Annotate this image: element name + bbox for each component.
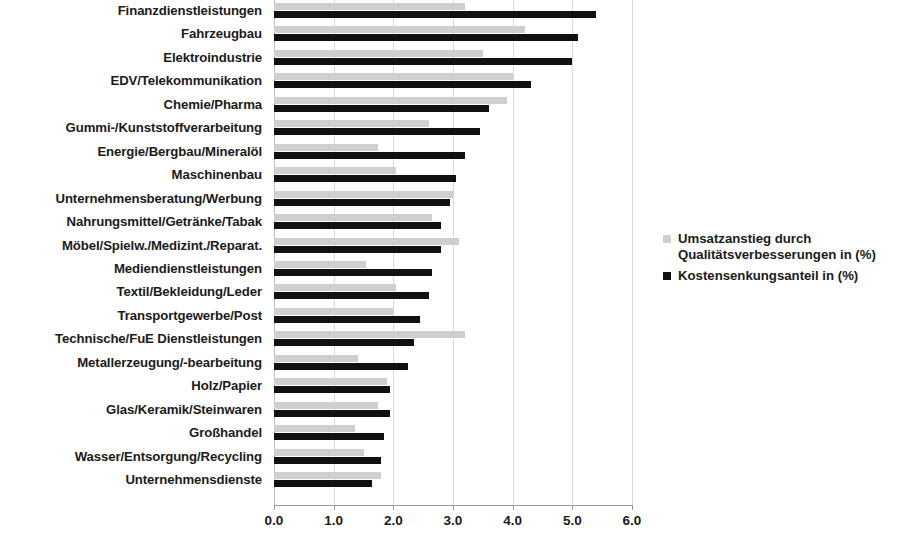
bar-kostensenkungsanteil: [274, 11, 596, 18]
category-label: Großhandel: [0, 426, 262, 440]
tick-label: 4.0: [490, 513, 536, 528]
bar-group: [274, 471, 632, 490]
legend-swatch-quality-icon: [663, 235, 671, 243]
bar-group: [274, 424, 632, 443]
bar-group: [274, 260, 632, 279]
legend-entry: Umsatzanstieg durch Qualitätsverbesserun…: [663, 231, 913, 262]
bar-kostensenkungsanteil: [274, 58, 572, 65]
bar-umsatzanstieg: [274, 50, 483, 57]
horizontal-bar-chart: FinanzdienstleistungenFahrzeugbauElektro…: [0, 0, 917, 546]
gridline-6.0: [632, 0, 633, 505]
bar-umsatzanstieg: [274, 26, 525, 33]
category-label: EDV/Telekommunikation: [0, 74, 262, 88]
bar-kostensenkungsanteil: [274, 292, 429, 299]
bar-group: [274, 143, 632, 162]
bar-kostensenkungsanteil: [274, 269, 432, 276]
plot-area: [274, 0, 632, 505]
bar-umsatzanstieg: [274, 402, 378, 409]
category-label: Maschinenbau: [0, 168, 262, 182]
bar-umsatzanstieg: [274, 97, 507, 104]
bar-kostensenkungsanteil: [274, 128, 480, 135]
bar-umsatzanstieg: [274, 449, 364, 456]
category-label: Unternehmensdienste: [0, 473, 262, 487]
category-label: Fahrzeugbau: [0, 27, 262, 41]
bar-group: [274, 448, 632, 467]
bar-kostensenkungsanteil: [274, 34, 578, 41]
category-label: Energie/Bergbau/Mineralöl: [0, 145, 262, 159]
tick-mark: [393, 505, 394, 510]
category-label: Gummi-/Kunststoffverarbeitung: [0, 121, 262, 135]
bar-umsatzanstieg: [274, 3, 465, 10]
bar-group: [274, 283, 632, 302]
bar-group: [274, 166, 632, 185]
bar-group: [274, 72, 632, 91]
legend-swatch-cost-icon: [663, 272, 671, 280]
bar-kostensenkungsanteil: [274, 199, 450, 206]
bar-kostensenkungsanteil: [274, 363, 408, 370]
bar-kostensenkungsanteil: [274, 433, 384, 440]
tick-label: 6.0: [609, 513, 655, 528]
bar-group: [274, 190, 632, 209]
tick-label: 2.0: [370, 513, 416, 528]
legend-label: Kostensenkungsanteil in (%): [678, 268, 858, 284]
bar-umsatzanstieg: [274, 167, 396, 174]
bar-kostensenkungsanteil: [274, 457, 381, 464]
bar-group: [274, 401, 632, 420]
bar-umsatzanstieg: [274, 120, 429, 127]
bar-kostensenkungsanteil: [274, 386, 390, 393]
bar-umsatzanstieg: [274, 472, 381, 479]
bar-kostensenkungsanteil: [274, 81, 531, 88]
tick-label: 3.0: [430, 513, 476, 528]
bar-kostensenkungsanteil: [274, 316, 420, 323]
bar-umsatzanstieg: [274, 284, 396, 291]
bar-group: [274, 354, 632, 373]
bar-group: [274, 96, 632, 115]
bar-group: [274, 330, 632, 349]
bar-group: [274, 213, 632, 232]
category-label: Transportgewerbe/Post: [0, 309, 262, 323]
bar-group: [274, 49, 632, 68]
category-label: Holz/Papier: [0, 379, 262, 393]
category-label: Unternehmensberatung/Werbung: [0, 192, 262, 206]
category-label: Möbel/Spielw./Medizint./Reparat.: [0, 239, 262, 253]
bar-kostensenkungsanteil: [274, 152, 465, 159]
bar-umsatzanstieg: [274, 191, 453, 198]
bar-kostensenkungsanteil: [274, 175, 456, 182]
bar-kostensenkungsanteil: [274, 410, 390, 417]
bar-kostensenkungsanteil: [274, 339, 414, 346]
bar-group: [274, 307, 632, 326]
bar-group: [274, 2, 632, 21]
bar-kostensenkungsanteil: [274, 480, 372, 487]
tick-label: 1.0: [311, 513, 357, 528]
category-label: Mediendienstleistungen: [0, 262, 262, 276]
category-label: Metallerzeugung/-bearbeitung: [0, 356, 262, 370]
tick-mark: [334, 505, 335, 510]
bar-umsatzanstieg: [274, 238, 459, 245]
tick-mark: [572, 505, 573, 510]
bar-group: [274, 237, 632, 256]
bar-kostensenkungsanteil: [274, 246, 441, 253]
value-axis: 0.01.02.03.04.05.06.0: [274, 505, 632, 546]
tick-label: 0.0: [251, 513, 297, 528]
bar-umsatzanstieg: [274, 73, 513, 80]
legend-entry: Kostensenkungsanteil in (%): [663, 268, 913, 284]
tick-label: 5.0: [549, 513, 595, 528]
category-label: Nahrungsmittel/Getränke/Tabak: [0, 215, 262, 229]
tick-mark: [632, 505, 633, 510]
bar-group: [274, 119, 632, 138]
bar-umsatzanstieg: [274, 308, 393, 315]
tick-mark: [513, 505, 514, 510]
category-label: Chemie/Pharma: [0, 98, 262, 112]
category-axis: FinanzdienstleistungenFahrzeugbauElektro…: [0, 0, 268, 505]
tick-mark: [274, 505, 275, 510]
bar-group: [274, 25, 632, 44]
bar-umsatzanstieg: [274, 214, 432, 221]
legend-label: Umsatzanstieg durch Qualitätsverbesserun…: [678, 231, 913, 262]
bar-umsatzanstieg: [274, 355, 358, 362]
category-label: Textil/Bekleidung/Leder: [0, 285, 262, 299]
category-label: Technische/FuE Dienstleistungen: [0, 332, 262, 346]
bar-umsatzanstieg: [274, 331, 465, 338]
bar-umsatzanstieg: [274, 378, 387, 385]
category-label: Finanzdienstleistungen: [0, 4, 262, 18]
category-label: Wasser/Entsorgung/Recycling: [0, 450, 262, 464]
